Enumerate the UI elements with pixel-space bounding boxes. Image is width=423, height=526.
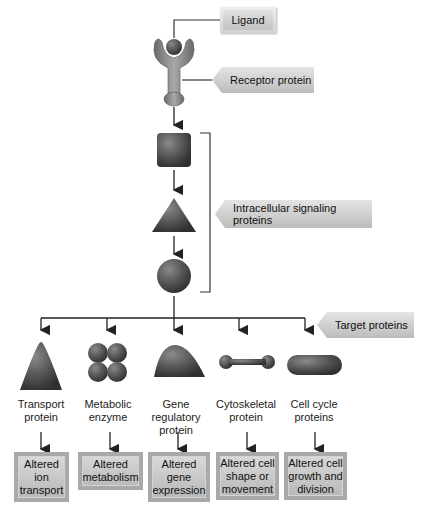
result-box-cell-growth: Altered cellgrowth anddivision: [284, 452, 347, 500]
intracellular-signaling-label: Intracellular signaling proteins: [215, 200, 372, 228]
ligand-connector: [174, 20, 220, 38]
bracket: [200, 133, 210, 292]
four-circles-icon: [88, 343, 127, 382]
result-box-metabolism: Alteredmetabolism: [78, 452, 143, 490]
dome-icon: [154, 345, 205, 377]
result-box-gene-expression: Alteredgeneexpression: [148, 452, 210, 502]
diagram-canvas: [0, 0, 423, 526]
ligand-label: Ligand: [220, 7, 276, 33]
triangle-signaling-protein-icon: [152, 198, 196, 232]
square-signaling-protein-icon: [157, 133, 191, 167]
result-box-ion-transport: Alterediontransport: [14, 452, 69, 502]
result-box-cell-shape: Altered cellshape ormovement: [216, 452, 279, 500]
target-proteins-label: Target proteins: [317, 312, 414, 338]
ligand-icon: [166, 39, 182, 55]
receptor-protein-label: Receptor protein: [212, 67, 314, 93]
capsule-icon: [287, 355, 342, 375]
sphere-signaling-protein-icon: [157, 259, 191, 293]
dumbbell-icon: [219, 355, 275, 369]
triangle-icon: [20, 342, 62, 390]
target-label-gene: Generegulatoryprotein: [136, 398, 216, 437]
target-label-cellcycle: Cell cycleproteins: [274, 398, 354, 424]
